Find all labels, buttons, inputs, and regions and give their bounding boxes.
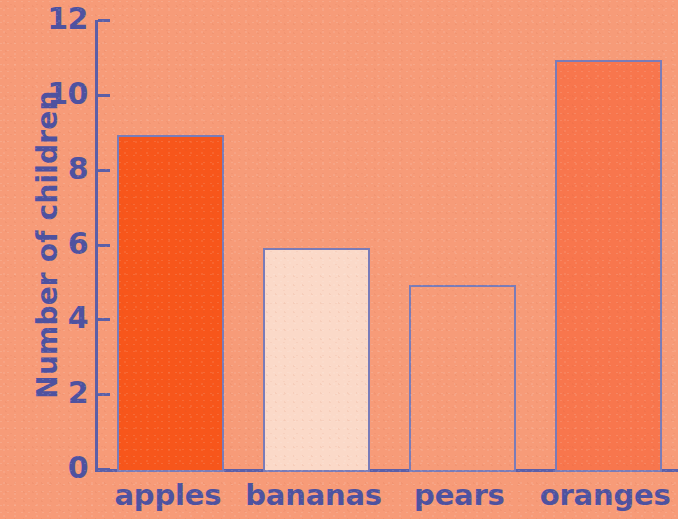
x-axis-label-apples: apples xyxy=(95,476,241,515)
y-axis-tick-labels: 024681012 xyxy=(0,0,88,519)
y-axis-tick xyxy=(98,244,110,247)
bar-pears xyxy=(409,285,516,472)
y-axis-tick-label: 4 xyxy=(2,303,88,333)
y-axis-tick-label: 0 xyxy=(2,453,88,483)
y-axis-tick-label: 6 xyxy=(2,229,88,259)
x-axis-label-oranges: oranges xyxy=(532,476,678,515)
x-axis-tick-labels: applesbananaspearsoranges xyxy=(95,476,678,519)
x-axis-label-bananas: bananas xyxy=(241,476,387,515)
bar-chart: Number of children 024681012 applesbanan… xyxy=(0,0,678,519)
bar-oranges xyxy=(555,60,662,472)
y-axis-tick-label: 8 xyxy=(2,154,88,184)
bar-bananas xyxy=(263,248,370,473)
y-axis-tick xyxy=(98,318,110,321)
y-axis-tick-label: 12 xyxy=(2,4,88,34)
y-axis-tick xyxy=(98,393,110,396)
y-axis-tick-label: 2 xyxy=(2,378,88,408)
bar-apples xyxy=(117,135,224,472)
y-axis-tick xyxy=(98,19,110,22)
x-axis-label-pears: pears xyxy=(387,476,533,515)
y-axis-tick-label: 10 xyxy=(2,79,88,109)
y-axis-tick xyxy=(98,94,110,97)
plot-area xyxy=(95,20,678,472)
y-axis-tick xyxy=(98,169,110,172)
y-axis-tick xyxy=(98,468,110,471)
